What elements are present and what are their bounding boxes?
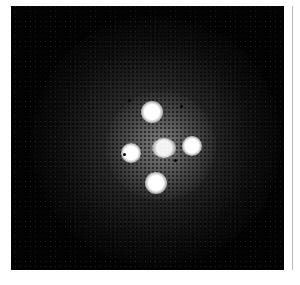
lensed-image-top (141, 101, 163, 123)
lensed-image-right (182, 136, 202, 156)
dark-pixel (128, 99, 131, 102)
dark-pixel (123, 153, 126, 156)
image-noise (11, 6, 284, 270)
lens-galaxy-core (152, 138, 176, 158)
lensed-image-bottom (145, 172, 167, 194)
side-divider (292, 6, 293, 270)
dark-pixel (174, 159, 177, 162)
astronomical-image (11, 6, 284, 270)
dark-pixel (180, 105, 183, 108)
